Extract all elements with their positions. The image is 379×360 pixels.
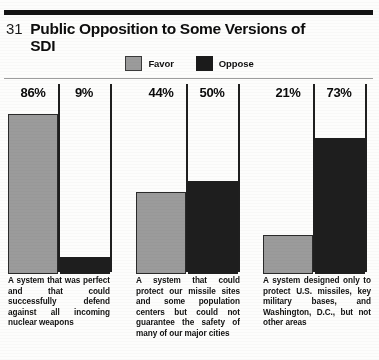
legend-item-favor: Favor: [125, 56, 173, 71]
bar-1-oppose: [60, 257, 110, 274]
value-label-2-favor: 44%: [136, 85, 186, 100]
legend-item-oppose: Oppose: [196, 56, 254, 71]
caption-1: A system that was perfect and that could…: [8, 276, 110, 329]
caption-2: A system that could protect our missile …: [136, 276, 240, 340]
value-label-3-favor: 21%: [263, 85, 313, 100]
page-title: Public Opposition to Some Versions of SD…: [30, 20, 330, 54]
bar-2-favor: [136, 192, 186, 274]
top-divider-rule: [4, 10, 373, 15]
bar-3-oppose: [315, 138, 365, 274]
legend-swatch-oppose-icon: [196, 56, 213, 71]
figure-number: 31: [6, 20, 22, 37]
caption-3: A system designed only to protect U.S. m…: [263, 276, 371, 329]
legend-label-oppose: Oppose: [219, 58, 254, 69]
bar-group-1: 86% 9%: [8, 84, 128, 274]
chart-legend: Favor Oppose: [0, 56, 379, 71]
bar-group-3: 21% 73%: [263, 84, 379, 274]
value-label-3-oppose: 73%: [315, 85, 363, 100]
bar-chart-plot: 86% 9% 44% 50% 21% 73%: [0, 84, 379, 274]
group-1-right-rule: [110, 84, 112, 272]
group-1-center-rule: [58, 84, 60, 272]
figure-container: 31 Public Opposition to Some Versions of…: [0, 0, 379, 360]
legend-label-favor: Favor: [148, 58, 173, 69]
bar-3-favor: [263, 235, 313, 274]
value-label-1-favor: 86%: [8, 85, 58, 100]
legend-divider-rule: [4, 78, 373, 79]
value-label-1-oppose: 9%: [60, 85, 108, 100]
group-3-right-rule: [365, 84, 367, 272]
group-2-right-rule: [238, 84, 240, 272]
figure-header: 31 Public Opposition to Some Versions of…: [6, 20, 336, 54]
bar-2-oppose: [188, 181, 238, 274]
value-label-2-oppose: 50%: [188, 85, 236, 100]
bar-group-2: 44% 50%: [136, 84, 256, 274]
legend-swatch-favor-icon: [125, 56, 142, 71]
bar-1-favor: [8, 114, 58, 274]
